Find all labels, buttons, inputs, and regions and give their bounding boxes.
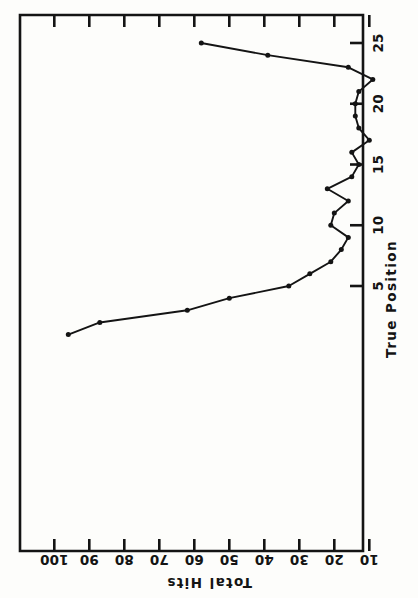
data-point: [346, 235, 351, 240]
data-point: [328, 223, 333, 228]
data-point: [325, 186, 330, 191]
total-hits-tick-label: 30: [290, 552, 309, 568]
chart-figure: 100908070605040302010 510152025 Total Hi…: [0, 0, 418, 598]
data-point-markers: [66, 41, 376, 338]
total-hits-tick-label: 60: [185, 552, 204, 568]
data-point: [227, 296, 232, 301]
true-position-tick-label: 15: [370, 155, 386, 174]
data-point: [307, 271, 312, 276]
data-point: [353, 101, 358, 106]
data-point: [346, 65, 351, 70]
axes-frame: [20, 15, 363, 551]
total-hits-tick-label: 50: [220, 552, 239, 568]
total-hits-tick-label: 80: [115, 552, 134, 568]
data-point: [349, 150, 354, 155]
total-hits-tick-group: [54, 539, 369, 551]
data-point: [353, 113, 358, 118]
total-hits-tick-label: 90: [80, 552, 99, 568]
total-hits-tick-label: 100: [40, 552, 68, 568]
data-point: [97, 320, 102, 325]
plot-frame: [20, 15, 363, 551]
true-position-tick-label: 25: [370, 34, 386, 53]
data-point: [339, 247, 344, 252]
data-point: [346, 198, 351, 203]
x-axis-title: True Position: [383, 240, 399, 358]
data-point: [370, 77, 375, 82]
data-point: [356, 162, 361, 167]
data-point: [286, 284, 291, 289]
data-point: [328, 259, 333, 264]
data-point: [356, 126, 361, 131]
data-point: [199, 41, 204, 46]
data-point: [367, 138, 372, 143]
y-axis-title: Total Hits: [166, 575, 252, 591]
true-position-tick-label: 10: [370, 216, 386, 235]
total-hits-tick-labels: 100908070605040302010: [40, 552, 378, 568]
true-position-tick-label: 20: [370, 94, 386, 113]
data-point: [356, 89, 361, 94]
data-point: [265, 53, 270, 58]
total-hits-tick-label: 70: [150, 552, 169, 568]
data-point: [66, 332, 71, 337]
line-chart-canvas: 100908070605040302010 510152025 Total Hi…: [0, 0, 418, 598]
data-point: [185, 308, 190, 313]
total-hits-tick-label: 40: [255, 552, 274, 568]
total-hits-tick-label: 10: [360, 552, 379, 568]
total-hits-tick-label: 20: [325, 552, 344, 568]
total-hits-tick-group-top: [54, 15, 369, 27]
data-point: [349, 174, 354, 179]
data-point: [332, 211, 337, 216]
